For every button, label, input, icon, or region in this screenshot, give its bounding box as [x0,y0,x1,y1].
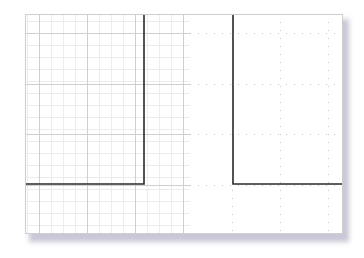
graph-paper-svg [0,0,364,258]
graph-paper-canvas [0,0,364,258]
